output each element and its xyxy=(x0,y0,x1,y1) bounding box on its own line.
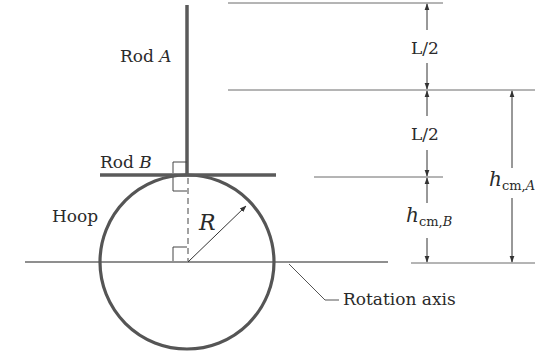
label-half-length-upper: L/2 xyxy=(411,38,439,58)
right-angle-mark-axis xyxy=(173,247,187,261)
right-angle-mark-rod-top xyxy=(173,162,187,173)
label-rod-b: Rod B xyxy=(100,152,152,172)
label-rotation-axis: Rotation axis xyxy=(343,289,456,309)
right-angle-mark-rod-bottom xyxy=(173,177,187,191)
label-h-cm-b: hcm,B xyxy=(406,203,452,229)
label-hoop: Hoop xyxy=(52,206,98,226)
radius-arrow xyxy=(188,206,246,262)
physics-diagram: Rod A Rod B Hoop R Rotation axis L/2 L/2… xyxy=(0,0,547,356)
label-rod-a: Rod A xyxy=(120,46,172,66)
rotation-axis-leader xyxy=(289,264,339,300)
label-h-cm-a: hcm,A xyxy=(489,167,535,193)
label-radius: R xyxy=(198,210,216,235)
label-half-length-lower: L/2 xyxy=(411,124,439,144)
